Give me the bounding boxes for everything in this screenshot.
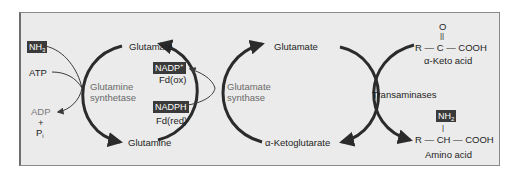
glutamine-label: Glutamine: [128, 138, 171, 148]
amino-acid-formula: R — CH — COOH: [415, 135, 494, 145]
glutamate-label-1: Glutamate: [129, 42, 173, 52]
amino-single-bond: |: [442, 124, 444, 132]
alpha-ketoglutarate-label: α-Ketoglutarate: [265, 138, 330, 148]
atp-label: ATP: [29, 68, 47, 78]
glutamine-synthetase-label: Glutaminesynthetase: [90, 82, 136, 104]
keto-acid-name: α-Keto acid: [424, 56, 472, 66]
transaminases-label: Transaminases: [372, 90, 437, 100]
glutamate-label-2: Glutamate: [274, 42, 318, 52]
amino-acid-name: Amino acid: [425, 150, 472, 160]
pi-label: Pi: [36, 128, 44, 139]
glutamate-synthase-label: Glutamatesynthase: [227, 82, 271, 104]
nadph-label: NADPH: [153, 102, 189, 112]
nh3-input-line: [45, 46, 82, 88]
nadp-label: NADP+: [153, 62, 186, 73]
adp-label: ADP: [31, 107, 51, 117]
adp-output-line: [58, 88, 82, 112]
amino-nh2-label: NH2: [436, 111, 456, 122]
nh3-label: NH3: [27, 42, 47, 53]
nadph-line: [188, 88, 215, 105]
fd-red-label: Fd(red): [156, 116, 187, 126]
keto-double-bond: ||: [440, 32, 444, 40]
keto-acid-formula: R — C — COOH: [415, 43, 487, 53]
fd-ox-label: Fd(ox): [159, 75, 186, 85]
